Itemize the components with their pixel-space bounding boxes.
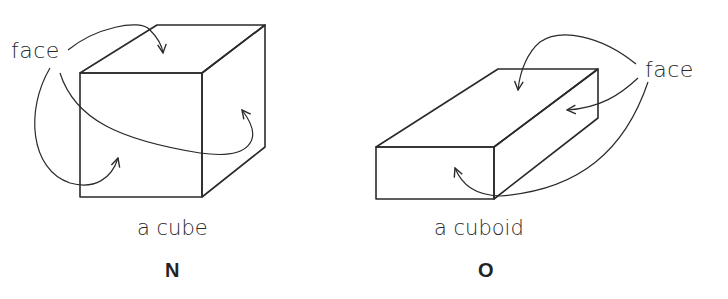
cube-letter: N	[165, 259, 179, 282]
cuboid-caption: a cuboid	[434, 216, 524, 240]
cuboid-face-label: face	[645, 57, 694, 82]
arrow-to-top-face-icon	[68, 25, 163, 53]
arrow-to-front-face-icon	[35, 68, 118, 185]
diagram-drawing	[0, 0, 728, 299]
arrow-to-right-face-icon	[60, 73, 253, 154]
cuboid-top-face	[376, 69, 598, 147]
cube-right-face	[202, 25, 265, 197]
cube-shape	[80, 25, 265, 197]
cuboid-shape	[376, 69, 598, 199]
arrow-to-top-face-icon	[518, 35, 636, 90]
cuboid-arrows	[455, 35, 648, 196]
cube-front-face	[80, 73, 202, 197]
cube-arrows	[35, 25, 253, 185]
cuboid-letter: O	[478, 259, 494, 282]
cuboid-right-face	[494, 69, 598, 199]
cube-face-label: face	[11, 38, 60, 63]
cube-top-face	[80, 25, 265, 73]
arrow-to-front-face-icon	[455, 82, 648, 196]
cube-caption: a cube	[137, 216, 208, 240]
arrow-to-right-face-icon	[567, 78, 638, 110]
diagram-canvas: face a cube N face a cuboid O	[0, 0, 728, 299]
